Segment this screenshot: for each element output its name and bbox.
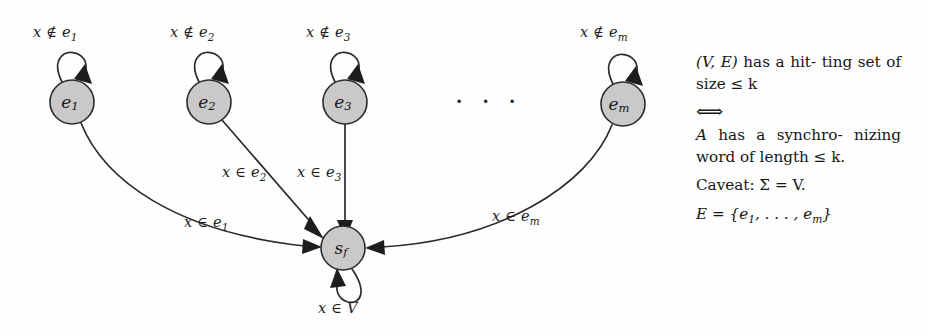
self-loop-label-em-text: x ∉ e (580, 24, 618, 40)
side-text-block: (V, E) has a hit- ting set of size ≤ k ⟺… (696, 52, 901, 237)
edge-set-lhs: E = {e (696, 205, 748, 223)
statement-synchronizing-word: A has a synchro- nizing word of length ≤… (696, 125, 901, 168)
ellipsis-dots: · · · (455, 88, 521, 114)
statement-hitting-set-lead: (V, E) (696, 53, 738, 71)
self-loop-label-e3: x ∉ e3 (306, 24, 351, 43)
self-loop-label-e2-text: x ∉ e (170, 24, 208, 40)
node-e3[interactable]: e3 (323, 80, 367, 124)
node-em[interactable]: em (601, 82, 645, 126)
edge-em-to-sf (365, 125, 612, 255)
transition-label-em-sf-text: x ∈ e (492, 208, 530, 224)
transition-label-e1-sf-text: x ∈ e (184, 214, 222, 230)
self-loop-label-em: x ∉ em (580, 24, 628, 43)
equivalence-symbol-row: ⟺ (696, 101, 901, 121)
transition-label-sf-loop-text: x ∈ V (318, 300, 358, 316)
self-loop-e3 (331, 52, 365, 84)
self-loop-label-e3-sub: 3 (344, 31, 351, 43)
transition-label-e1-sf: x ∈ e1 (184, 214, 229, 233)
self-loop-e1 (58, 52, 92, 84)
node-e1[interactable]: e1 (50, 80, 94, 124)
transition-label-e3-sf-sub: 3 (335, 171, 342, 183)
self-loop-label-e2-sub: 2 (208, 31, 215, 43)
edge-set-sub1: 1 (748, 213, 755, 226)
iff-icon: ⟺ (696, 101, 901, 121)
transition-label-em-sf: x ∈ em (492, 208, 540, 227)
statement-synchronizing-line3: length ≤ k. (760, 148, 846, 166)
self-loop-label-e1-sub: 1 (71, 31, 78, 43)
statement-synchronizing-lead: A (696, 126, 707, 144)
transition-label-sf-loop: x ∈ V (318, 300, 358, 316)
self-loop-em (609, 54, 643, 86)
statement-synchronizing-rest: has a synchro- (718, 126, 842, 144)
edge-set-close: } (822, 205, 832, 223)
self-loop-label-e3-text: x ∉ e (306, 24, 344, 40)
edge-e1-to-sf (81, 123, 322, 254)
self-loop-sf (330, 268, 361, 302)
self-loop-label-em-sub: m (618, 31, 628, 43)
statement-hitting-set-rest: has a hit- (743, 53, 816, 71)
edge-set-line: E = {e1, . . . , em} (696, 204, 901, 231)
transition-label-e1-sf-sub: 1 (222, 221, 229, 233)
transition-label-e2-sf: x ∈ e2 (222, 164, 267, 183)
transition-label-e3-sf: x ∈ e3 (297, 164, 342, 183)
figure-root: e1 e2 e3 em sf · · · x ∉ e1 x ∉ e2 x ∉ e… (0, 0, 928, 336)
caveat-text: Caveat: Σ = V. (696, 176, 806, 194)
node-e2[interactable]: e2 (187, 80, 231, 124)
transition-label-e2-sf-text: x ∈ e (222, 164, 260, 180)
transition-label-em-sf-sub: m (530, 215, 540, 227)
self-loop-label-e1-text: x ∉ e (33, 24, 71, 40)
edge-set-sub2: m (812, 213, 822, 226)
edge-set-mid: , . . . , e (755, 205, 812, 223)
self-loop-label-e1: x ∉ e1 (33, 24, 78, 43)
transition-label-e2-sf-sub: 2 (260, 171, 267, 183)
caveat-line: Caveat: Σ = V. (696, 175, 901, 197)
node-sf[interactable]: sf (321, 226, 365, 270)
self-loop-e2 (195, 52, 229, 84)
statement-hitting-set: (V, E) has a hit- ting set of size ≤ k (696, 52, 901, 95)
self-loop-label-e2: x ∉ e2 (170, 24, 215, 43)
transition-label-e3-sf-text: x ∈ e (297, 164, 335, 180)
